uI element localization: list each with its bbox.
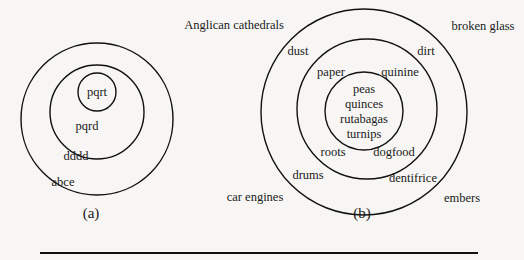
label-dentifrice: dentifrice xyxy=(389,172,437,185)
label-dddd: dddd xyxy=(64,150,89,163)
a-middle-circle xyxy=(50,65,144,159)
label-paper: paper xyxy=(317,66,345,79)
label-drums: drums xyxy=(292,169,323,182)
label-dust: dust xyxy=(288,45,309,58)
label-pqrt: pqrt xyxy=(87,86,107,99)
label-roots: roots xyxy=(321,146,346,159)
caption-b: (b) xyxy=(353,206,371,221)
label-car-engines: car engines xyxy=(227,191,284,204)
b-inner-labels: peas quinces rutabagas turnips xyxy=(340,82,388,142)
caption-a: (a) xyxy=(83,206,100,221)
label-dirt: dirt xyxy=(417,45,434,58)
label-quinine: quinine xyxy=(381,66,419,79)
label-turnips: turnips xyxy=(340,127,388,142)
horizontal-rule xyxy=(40,252,478,254)
label-anglican-cathedrals: Anglican cathedrals xyxy=(184,19,284,32)
label-dogfood: dogfood xyxy=(373,146,415,159)
label-abce: abce xyxy=(52,176,75,189)
label-pqrd: pqrd xyxy=(76,120,99,133)
label-embers: embers xyxy=(444,192,480,205)
label-peas: peas xyxy=(340,82,388,97)
label-rutabagas: rutabagas xyxy=(340,112,388,127)
label-broken-glass: broken glass xyxy=(452,20,515,33)
label-quinces: quinces xyxy=(340,97,388,112)
